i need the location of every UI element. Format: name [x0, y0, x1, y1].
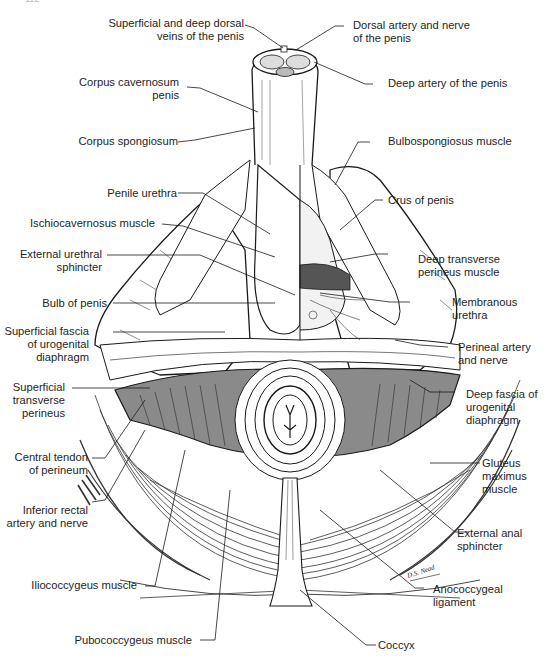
label-line: External anal	[457, 527, 522, 540]
label-external-urethral-sphincter: External urethral sphincter	[20, 248, 102, 274]
label-central-tendon: Central tendon of perineum	[15, 451, 88, 477]
label-ischiocavernosus: Ischiocavernosus muscle	[30, 217, 155, 230]
label-penile-urethra: Penile urethra	[107, 187, 177, 200]
label-line: Crus of penis	[388, 194, 454, 207]
label-line: Ischiocavernosus muscle	[30, 217, 155, 230]
label-external-anal-sphincter: External anal sphincter	[457, 527, 522, 553]
label-line: penis	[79, 89, 179, 102]
label-line: Deep transverse	[418, 253, 500, 266]
label-line: Anococcygeal	[433, 583, 503, 596]
penis-shaft	[252, 46, 318, 165]
anococcygeal-ligament-shape	[270, 478, 312, 606]
label-corpus-spongiosum: Corpus spongiosum	[79, 135, 179, 148]
label-line: sphincter	[457, 540, 522, 553]
label-line: Central tendon	[15, 451, 88, 464]
label-bulbospongiosus: Bulbospongiosus muscle	[388, 135, 512, 148]
bulb-of-penis-shape	[255, 165, 300, 334]
label-line: Penile urethra	[107, 187, 177, 200]
label-line: ligament	[433, 596, 503, 609]
label-line: transverse	[13, 394, 65, 407]
label-line: diaphragm	[466, 414, 538, 427]
label-corpus-cavernosum: Corpus cavernosum penis	[79, 76, 179, 102]
label-iliococcygeus: Iliococcygeus muscle	[31, 579, 137, 592]
label-line: Corpus cavernosum	[79, 76, 179, 89]
label-pubococcygeus: Pubococcygeus muscle	[74, 634, 192, 647]
anal-sphincter	[235, 360, 345, 480]
label-line: Perineal artery	[458, 341, 531, 354]
label-inferior-rectal: Inferior rectal artery and nerve	[7, 504, 88, 530]
label-line: Corpus spongiosum	[79, 135, 179, 148]
label-deep-transverse-perineus: Deep transverse perineus muscle	[418, 253, 500, 279]
label-line: of the penis	[353, 32, 470, 45]
label-line: and nerve	[458, 354, 531, 367]
label-line: Superficial fascia	[4, 325, 89, 338]
artist-signature: D.S. Nead	[405, 563, 436, 580]
label-line: Coccyx	[378, 639, 415, 652]
label-line: of perineum	[15, 464, 88, 477]
label-line: Superficial	[13, 381, 65, 394]
label-crus-of-penis: Crus of penis	[388, 194, 454, 207]
label-membranous-urethra: Membranous urethra	[452, 296, 517, 322]
label-line: diaphragm	[4, 351, 89, 364]
label-line: Bulb of penis	[42, 297, 107, 310]
label-line: Membranous	[452, 296, 517, 309]
label-line: External urethral	[20, 248, 102, 261]
label-line: veins of the penis	[108, 30, 244, 43]
label-dorsal-veins: Superficial and deep dorsal veins of the…	[108, 17, 244, 43]
label-line: urethra	[452, 309, 517, 322]
label-deep-artery: Deep artery of the penis	[388, 77, 507, 90]
label-line: artery and nerve	[7, 517, 88, 530]
label-line: Bulbospongiosus muscle	[388, 135, 512, 148]
label-line: Superficial and deep dorsal	[108, 17, 244, 30]
label-line: muscle	[482, 483, 527, 496]
label-line: Inferior rectal	[7, 504, 88, 517]
label-superficial-fascia: Superficial fascia of urogenital diaphra…	[4, 325, 89, 364]
label-line: Dorsal artery and nerve	[353, 19, 470, 32]
label-line: Deep artery of the penis	[388, 77, 507, 90]
label-perineal-artery-nerve: Perineal artery and nerve	[458, 341, 531, 367]
label-superficial-transverse-perineus: Superficial transverse perineus	[13, 381, 65, 420]
label-line: Gluteus	[482, 457, 527, 470]
label-line: of urogenital	[4, 338, 89, 351]
label-line: Pubococcygeus muscle	[74, 634, 192, 647]
label-line: perineus muscle	[418, 266, 500, 279]
label-line: sphincter	[20, 261, 102, 274]
label-bulb-of-penis: Bulb of penis	[42, 297, 107, 310]
label-gluteus-maximus: Gluteus maximus muscle	[482, 457, 527, 496]
label-line: perineus	[13, 407, 65, 420]
label-line: urogenital	[466, 401, 538, 414]
label-deep-fascia: Deep fascia of urogenital diaphragm	[466, 388, 538, 427]
label-line: maximus	[482, 470, 527, 483]
label-coccyx: Coccyx	[378, 639, 415, 652]
label-line: Deep fascia of	[466, 388, 538, 401]
label-anococcygeal-ligament: Anococcygeal ligament	[433, 583, 503, 609]
label-line: Iliococcygeus muscle	[31, 579, 137, 592]
label-dorsal-artery-nerve: Dorsal artery and nerve of the penis	[353, 19, 470, 45]
